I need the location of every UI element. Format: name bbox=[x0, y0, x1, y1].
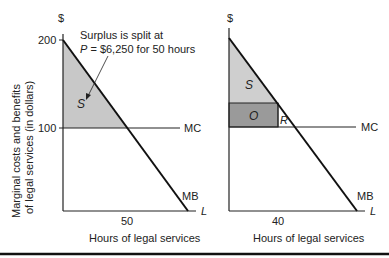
mb-label-right: MB bbox=[357, 190, 374, 202]
mc-label-right: MC bbox=[361, 121, 378, 133]
mc-label-left: MC bbox=[184, 122, 201, 134]
label-s-left: S bbox=[77, 97, 85, 111]
x-tick-40: 40 bbox=[272, 215, 284, 227]
right-panel: $ S O R MC MB L 40 Hours of legal servic… bbox=[227, 12, 378, 244]
left-panel: $ 200 100 Surplus is split at P = $6,250… bbox=[10, 12, 207, 244]
l-label-right: L bbox=[370, 205, 376, 217]
label-s-right: S bbox=[245, 78, 253, 92]
y-unit-right: $ bbox=[227, 12, 233, 24]
label-r-right: R bbox=[280, 114, 288, 126]
chart-canvas: $ 200 100 Surplus is split at P = $6,250… bbox=[0, 0, 389, 258]
y-unit-left: $ bbox=[58, 12, 64, 24]
l-label-left: L bbox=[201, 205, 207, 217]
mb-label-left: MB bbox=[182, 190, 199, 202]
y-label-line2: of legal services (in dollars) bbox=[23, 81, 35, 214]
x-label-right: Hours of legal services bbox=[253, 232, 365, 244]
y-tick-100: 100 bbox=[38, 122, 56, 134]
label-o-right: O bbox=[249, 109, 258, 123]
x-tick-50: 50 bbox=[121, 215, 133, 227]
annotation-line2: P = $6,250 for 50 hours bbox=[80, 43, 196, 55]
annotation-line1: Surplus is split at bbox=[80, 29, 163, 41]
y-tick-200: 200 bbox=[38, 34, 56, 46]
y-label-line1: Marginal costs and benefits bbox=[10, 84, 22, 218]
x-label-left: Hours of legal services bbox=[89, 232, 201, 244]
